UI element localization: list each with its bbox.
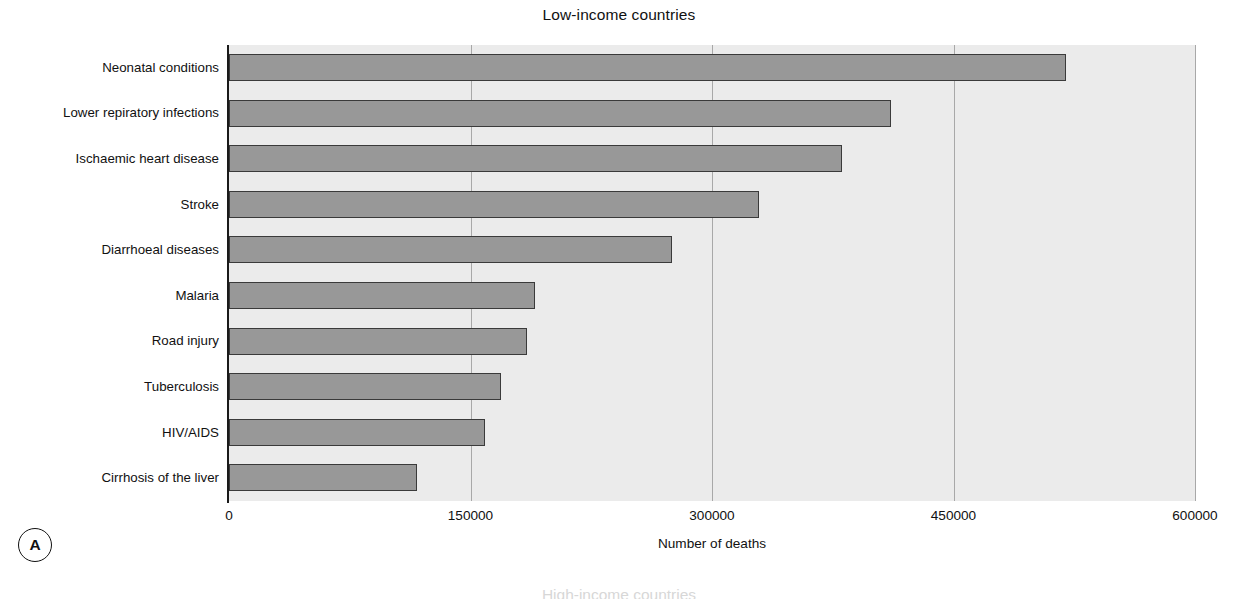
x-tick-label: 450000 — [931, 508, 976, 523]
bar[interactable] — [229, 419, 485, 446]
chart-title: Low-income countries — [0, 6, 1238, 24]
bar[interactable] — [229, 464, 417, 491]
bar[interactable] — [229, 236, 672, 263]
bars-group — [229, 45, 1195, 501]
category-label: Ischaemic heart disease — [0, 152, 219, 166]
bar-row — [229, 136, 1195, 182]
category-label: Cirrhosis of the liver — [0, 471, 219, 485]
bar-row — [229, 273, 1195, 319]
next-panel-title-cropped: High-income countries — [0, 586, 1238, 599]
bar-row — [229, 455, 1195, 501]
bar[interactable] — [229, 145, 842, 172]
x-tick-label: 600000 — [1172, 508, 1217, 523]
x-axis-title: Number of deaths — [229, 536, 1195, 551]
category-label: Diarrhoeal diseases — [0, 243, 219, 257]
bar-row — [229, 45, 1195, 91]
category-label: Malaria — [0, 289, 219, 303]
category-label: Road injury — [0, 334, 219, 348]
category-label: Neonatal conditions — [0, 61, 219, 75]
category-label: Stroke — [0, 198, 219, 212]
x-tick-label: 150000 — [448, 508, 493, 523]
bar[interactable] — [229, 54, 1066, 81]
bar[interactable] — [229, 373, 501, 400]
bar[interactable] — [229, 282, 535, 309]
category-axis-labels: Neonatal conditionsLower repiratory infe… — [0, 45, 219, 501]
category-label: HIV/AIDS — [0, 426, 219, 440]
bar[interactable] — [229, 328, 527, 355]
bar-row — [229, 410, 1195, 456]
figure-panel-a: Low-income countries Neonatal conditions… — [0, 0, 1238, 600]
bar-row — [229, 182, 1195, 228]
category-label: Tuberculosis — [0, 380, 219, 394]
panel-label-a: A — [18, 528, 52, 562]
bar-row — [229, 364, 1195, 410]
gridline-600000 — [1195, 45, 1196, 501]
bar-row — [229, 227, 1195, 273]
category-label: Lower repiratory infections — [0, 106, 219, 120]
x-tick-label: 300000 — [689, 508, 734, 523]
y-axis-line — [227, 45, 229, 503]
x-tick-label: 0 — [225, 508, 233, 523]
bar-row — [229, 319, 1195, 365]
bar[interactable] — [229, 191, 759, 218]
bar-row — [229, 91, 1195, 137]
plot-area — [229, 45, 1195, 501]
bar[interactable] — [229, 100, 891, 127]
